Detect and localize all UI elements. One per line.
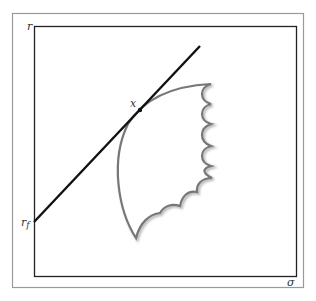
x-axis-label: σ (287, 276, 295, 289)
tangency-label: x (130, 97, 137, 110)
tangency-point (138, 108, 142, 112)
y-axis-label: r (27, 20, 33, 33)
risk-free-label-subscript: f (25, 220, 31, 230)
risk-free-label: rf (21, 216, 31, 230)
efficient-frontier-diagram: r σ x rf (0, 0, 316, 301)
